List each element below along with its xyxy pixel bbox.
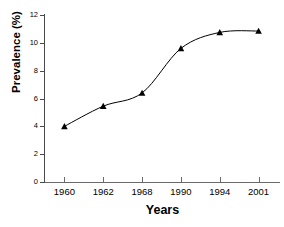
data-series-line (0, 0, 284, 227)
data-point-marker (100, 103, 107, 109)
chart-figure: Prevalence (%) 024681012 196019621968199… (0, 0, 284, 227)
data-point-marker (178, 45, 185, 51)
series-path (64, 31, 258, 127)
x-axis-title: Years (45, 203, 280, 217)
data-point-marker (61, 123, 68, 129)
